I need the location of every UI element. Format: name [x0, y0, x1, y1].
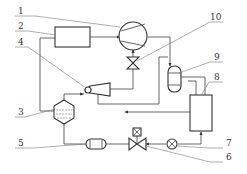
label-10: 10 [210, 12, 222, 22]
component-2-box [55, 27, 90, 47]
label-7: 7 [226, 138, 232, 148]
ejector [85, 83, 110, 96]
solenoid-valve [129, 128, 146, 150]
component-8-box [190, 95, 212, 131]
refrigeration-diagram: 1 2 4 3 5 10 9 8 7 6 [0, 0, 247, 174]
piping [40, 36, 205, 146]
sight-glass [167, 139, 177, 149]
expansion-valve [127, 57, 139, 69]
label-4: 4 [18, 37, 24, 47]
label-1: 1 [18, 6, 24, 16]
label-5: 5 [18, 138, 24, 148]
separator [54, 100, 74, 124]
filter [86, 139, 106, 149]
label-2: 2 [18, 21, 24, 31]
compressor [119, 22, 147, 50]
label-8: 8 [214, 72, 220, 82]
label-6: 6 [226, 152, 232, 162]
label-9: 9 [214, 52, 220, 62]
label-3: 3 [18, 107, 24, 117]
receiver [168, 66, 181, 92]
